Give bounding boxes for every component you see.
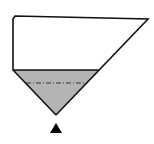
hopper-diagram (0, 0, 154, 144)
material-fill (13, 70, 100, 115)
tank-outline (13, 16, 148, 115)
discharge-marker-icon (50, 123, 62, 133)
